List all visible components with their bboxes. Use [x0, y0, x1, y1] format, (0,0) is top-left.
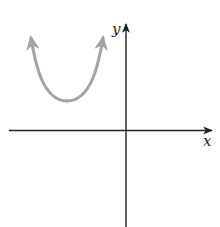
parabola-curve-right [67, 38, 103, 101]
coordinate-plane: y x [0, 0, 220, 227]
y-axis-label: y [111, 20, 121, 38]
parabola-curve-left [31, 38, 67, 101]
x-axis-label: x [203, 132, 212, 150]
